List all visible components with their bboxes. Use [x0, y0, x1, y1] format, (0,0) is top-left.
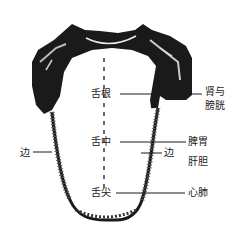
- tongue-illustration: [0, 0, 242, 237]
- label-middle: 舌中: [91, 136, 111, 147]
- tongue-root-shadow: [32, 24, 192, 114]
- label-edge-organs: 肝胆: [188, 156, 208, 167]
- label-root-organs-2: 膀胱: [205, 100, 225, 111]
- label-edge-right: 边: [164, 147, 174, 158]
- label-root-organs-1: 肾与: [205, 86, 225, 97]
- label-middle-organs: 脾胃: [188, 136, 208, 147]
- label-tip-organs: 心肺: [188, 187, 208, 198]
- label-root: 舌根: [91, 88, 111, 99]
- label-edge-left: 边: [20, 147, 30, 158]
- label-tip: 舌尖: [91, 187, 111, 198]
- tongue-body-outline: [52, 108, 158, 220]
